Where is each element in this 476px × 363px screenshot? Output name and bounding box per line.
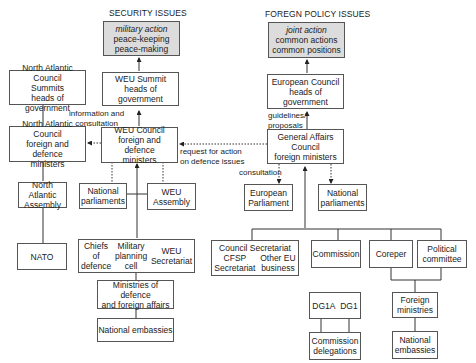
weu-council-box: WEU Council foreign and defence minister… (101, 127, 178, 163)
ne-line1: National (399, 335, 430, 345)
weu-secretariat: WEU Secretariat (151, 246, 192, 266)
chiefs-line1: Chiefs (81, 241, 111, 251)
cfsp-secretariat: CFSP Secretariat (214, 253, 255, 273)
ep-line1: European (250, 188, 287, 198)
other-line2: business (260, 263, 295, 273)
other-eu-business: Other EU business (260, 253, 295, 273)
info-label-line1: information and (69, 109, 124, 119)
ec-line2: heads of government (268, 87, 343, 107)
dg-box: DG1A DG1 (309, 292, 361, 319)
pc-line1: Political (427, 244, 456, 254)
fp-national-embassies-box: National embassies (392, 331, 438, 359)
fp-national-parliaments-box: National parliaments (318, 184, 367, 211)
weu-assembly-line2: Assembly (153, 197, 190, 207)
weu-council-line1: WEU Council (114, 125, 165, 135)
nac-ministers-line2: foreign and defence (10, 139, 85, 159)
nato-box: NATO (17, 243, 67, 270)
common-positions-text: common positions (272, 45, 341, 55)
peace-making-text: peace-making (115, 44, 168, 54)
request-line1: request for action (180, 147, 245, 157)
european-council-box: European Council heads of government (267, 74, 344, 109)
ministries-box: Ministries of defence and foreign affair… (97, 280, 174, 309)
commission-box: Commission (311, 240, 361, 268)
nac-summits-box: North Atlantic Council Summits heads of … (9, 70, 86, 105)
fpnp-line1: National (327, 188, 358, 198)
ministries-line1: Ministries of defence (98, 280, 173, 300)
peace-keeping-text: peace-keeping (114, 34, 170, 44)
chiefs-line2: of (81, 251, 111, 261)
ne-line2: embassies (395, 345, 436, 355)
weu-assembly-line1: WEU (162, 187, 182, 197)
guidelines-label: guidelines/ proposals (268, 111, 306, 130)
nac-summits-line2: Summits (31, 83, 64, 93)
military-action-box: military action peace-keeping peace-maki… (103, 21, 180, 56)
naa-line1: North Atlantic (19, 180, 66, 200)
mpc-line1: Military (115, 241, 147, 251)
military-action-title: military action (116, 24, 168, 34)
weu-summit-sub: heads of government (103, 84, 178, 104)
request-line2: on defence issues (180, 157, 245, 167)
weu-sec-line1: WEU (151, 246, 192, 256)
snp-line1: National (87, 186, 118, 196)
joint-action-box: joint action common actions common posit… (268, 22, 345, 58)
cd-line2: delegations (313, 346, 356, 356)
nac-summits-line1: North Atlantic Council (10, 63, 85, 83)
fpnp-line2: parliaments (321, 198, 365, 208)
ec-line1: European Council (272, 77, 340, 87)
political-committee-box: Political committee (417, 240, 467, 268)
commission-delegations-box: Commission delegations (309, 332, 361, 360)
nac-ministers-line3: ministers (30, 159, 64, 169)
coreper-text: Coreper (376, 249, 407, 259)
weu-council-line3: ministers (122, 155, 156, 165)
gac-line3: foreign ministers (274, 152, 336, 162)
weu-bodies-box: Chiefs of defence Military planning cell… (78, 239, 195, 273)
cd-line1: Commission (312, 336, 359, 346)
security-embassies-box: National embassies (97, 318, 174, 342)
pc-line2: committee (422, 254, 461, 264)
gac-line2: Council (291, 142, 319, 152)
fm-line2: ministries (397, 305, 433, 315)
nato-text: NATO (31, 252, 54, 262)
other-line1: Other EU (260, 253, 295, 263)
consultation-label: consultation (239, 168, 282, 178)
nac-ministers-line1: North Atlantic Council (10, 119, 85, 139)
snp-line2: parliaments (81, 196, 125, 206)
council-secretariat-title: Council Secretariat (219, 243, 291, 253)
guidelines-line1: guidelines/ (268, 111, 306, 121)
naa-line2: Assembly (24, 200, 61, 210)
council-secretariat-box: Council Secretariat CFSP Secretariat Oth… (211, 240, 299, 276)
weu-council-line2: foreign and defence (102, 135, 177, 155)
north-atlantic-assembly-box: North Atlantic Assembly (18, 182, 67, 208)
ep-line2: Parliament (248, 198, 289, 208)
coreper-box: Coreper (369, 240, 413, 268)
foreign-ministries-box: Foreign ministries (392, 292, 438, 318)
weu-sec-line2: Secretariat (151, 256, 192, 266)
security-embassies-text: National embassies (98, 325, 172, 335)
cfsp-line2: Secretariat (214, 263, 255, 273)
dg1-text: DG1 (340, 301, 357, 311)
dg1a-text: DG1A (312, 301, 335, 311)
cfsp-line1: CFSP (214, 253, 255, 263)
foreign-policy-header: FOREGN POLICY ISSUES (265, 9, 370, 19)
mpc-line3: cell (115, 261, 147, 271)
gac-line1: General Affairs (277, 132, 333, 142)
general-affairs-council-box: General Affairs Council foreign minister… (267, 129, 344, 164)
military-planning-cell: Military planning cell (115, 241, 147, 271)
weu-assembly-box: WEU Assembly (147, 183, 196, 210)
chiefs-of-defence: Chiefs of defence (81, 241, 111, 271)
chiefs-line3: defence (81, 261, 111, 271)
joint-action-title: joint action (286, 25, 327, 35)
commission-text: Commission (313, 249, 360, 259)
weu-summit-title: WEU Summit (115, 74, 166, 84)
mpc-line2: planning (115, 251, 147, 261)
european-parliament-box: European Parliament (244, 184, 293, 211)
ministries-line2: and foreign affairs (102, 300, 170, 310)
common-actions-text: common actions (276, 35, 338, 45)
weu-summit-box: WEU Summit heads of government (102, 72, 179, 106)
request-action-label: request for action on defence issues (180, 147, 245, 166)
fm-line1: Foreign (401, 295, 430, 305)
nac-ministers-box: North Atlantic Council foreign and defen… (9, 126, 86, 162)
security-issues-header: SECURITY ISSUES (109, 8, 187, 18)
security-national-parliaments-box: National parliaments (79, 183, 127, 209)
